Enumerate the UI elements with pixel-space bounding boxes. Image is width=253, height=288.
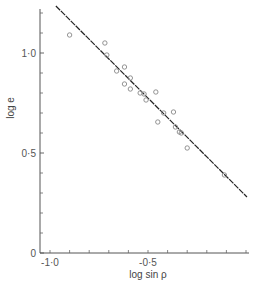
tick-labels: -1·0-0·500·51·0 <box>22 48 158 268</box>
y-tick-label: 0·5 <box>22 148 37 159</box>
data-points <box>67 33 226 177</box>
data-point <box>128 87 132 91</box>
x-axis-title: log sin ρ <box>129 269 167 280</box>
y-axis-title: log e <box>5 97 16 119</box>
x-tick-label: -0·5 <box>139 257 157 268</box>
data-point <box>144 98 148 102</box>
ticks <box>40 13 246 253</box>
y-tick-label: 0 <box>30 248 36 259</box>
regression-line <box>56 6 247 197</box>
data-point <box>114 69 118 73</box>
scatter-chart: -1·0-0·500·51·0 log sin ρ log e <box>0 0 253 288</box>
y-tick-label: 1·0 <box>22 48 37 59</box>
fit-line <box>56 6 247 197</box>
data-point <box>171 110 175 114</box>
data-point <box>128 76 132 80</box>
data-point <box>67 33 71 37</box>
axes <box>40 9 249 253</box>
data-point <box>122 65 126 69</box>
data-point <box>103 41 107 45</box>
data-point <box>156 120 160 124</box>
data-point <box>122 82 126 86</box>
data-point <box>154 90 158 94</box>
data-point <box>185 146 189 150</box>
x-tick-label: -1·0 <box>41 257 59 268</box>
